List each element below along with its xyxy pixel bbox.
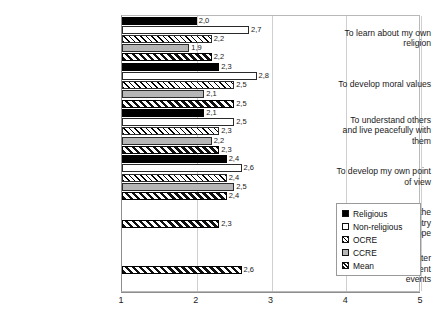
- bar-value-label: 2,3: [221, 219, 231, 228]
- bar: [122, 192, 227, 200]
- legend-item: Religious: [342, 207, 416, 220]
- chart-legend: Religious Non-religious OCRE CCRE Mean: [336, 203, 421, 276]
- bar: [122, 146, 219, 154]
- bar-series-ccre: 2,1: [122, 90, 421, 98]
- x-axis-tick-label: 4: [343, 294, 348, 306]
- x-axis-tick-label: 1: [118, 294, 123, 306]
- y-axis-label-line: To learn about my own: [316, 28, 431, 39]
- bar-value-label: 2,5: [236, 80, 246, 89]
- bar: [122, 90, 204, 98]
- bar-chart: · · · · · · · · 2,02,72,21,92,22,32,82,5…: [0, 0, 434, 320]
- clipped-title-text: · · · · · · · ·: [160, 0, 203, 4]
- bar-series-mean: 2,3: [122, 146, 421, 154]
- x-axis-tick-label: 2: [193, 294, 198, 306]
- bar: [122, 183, 234, 191]
- y-axis-category-label: To understand othersand live peacefully …: [316, 115, 434, 147]
- y-axis-label-line: To develop moral values: [316, 79, 431, 90]
- bar: [122, 35, 212, 43]
- bar: [122, 81, 234, 89]
- bar-value-label: 2,5: [236, 182, 246, 191]
- y-axis-label-line: To understand others: [316, 115, 431, 126]
- bar-value-label: 2,2: [214, 136, 224, 145]
- legend-label: CCRE: [353, 248, 377, 258]
- bar-value-label: 2,6: [244, 163, 254, 172]
- bar-value-label: 2,1: [206, 108, 216, 117]
- bar-value-label: 2,2: [214, 34, 224, 43]
- legend-item: Non-religious: [342, 220, 416, 233]
- legend-label: Mean: [353, 261, 374, 271]
- bar-value-label: 2,4: [229, 154, 239, 163]
- legend-label: Non-religious: [353, 222, 402, 232]
- bar-value-label: 2,5: [236, 99, 246, 108]
- white-swatch-icon: [342, 223, 349, 230]
- bar: [122, 164, 242, 172]
- bar: [122, 53, 212, 61]
- y-axis-label-line: them: [316, 136, 431, 147]
- bar: [122, 137, 212, 145]
- bar: [122, 109, 204, 117]
- legend-item: CCRE: [342, 246, 416, 259]
- bar-value-label: 2,3: [221, 145, 231, 154]
- bar-series-religious: 2,4: [122, 155, 421, 163]
- bar-value-label: 2,2: [214, 52, 224, 61]
- bar-series-religious: 2,3: [122, 63, 421, 71]
- bar: [122, 72, 257, 80]
- vertical-gridline: [421, 16, 422, 291]
- bar-value-label: 2,5: [236, 117, 246, 126]
- solid-black-swatch-icon: [342, 210, 349, 217]
- bar-value-label: 2,8: [259, 71, 269, 80]
- bar-value-label: 2,7: [251, 25, 261, 34]
- y-axis-category-label: To develop my own pointof view: [316, 166, 434, 187]
- bar-value-label: 2,1: [206, 89, 216, 98]
- bar: [122, 266, 242, 274]
- bar-series-mean: 2,5: [122, 100, 421, 108]
- bar-value-label: 2,0: [199, 16, 209, 25]
- x-axis-tick-label: 3: [268, 294, 273, 306]
- y-axis-category-label: To learn about my ownreligion: [316, 28, 434, 49]
- bar-value-label: 2,3: [221, 126, 231, 135]
- bar-series-religious: 2,0: [122, 17, 421, 25]
- bar: [122, 174, 227, 182]
- bar: [122, 63, 219, 71]
- bar: [122, 100, 234, 108]
- legend-item: Mean: [342, 259, 416, 272]
- bar-value-label: 1,9: [191, 43, 201, 52]
- clipped-title-strip: · · · · · · · ·: [0, 0, 434, 10]
- x-axis-line: [121, 292, 420, 293]
- diagonal-hatch-swatch-icon: [342, 262, 349, 269]
- bar-value-label: 2,4: [229, 173, 239, 182]
- y-axis-label-line: religion: [316, 38, 431, 49]
- bar: [122, 220, 219, 228]
- bar: [122, 155, 227, 163]
- y-axis-category-label: To develop moral values: [316, 79, 434, 90]
- light-hatch-swatch-icon: [342, 236, 349, 243]
- legend-item: OCRE: [342, 233, 416, 246]
- y-axis-label-line: and live peacefully with: [316, 125, 431, 136]
- bar: [122, 127, 219, 135]
- legend-label: Religious: [353, 209, 387, 219]
- bar: [122, 118, 234, 126]
- bar-series-mean: 2,4: [122, 192, 421, 200]
- bar: [122, 26, 249, 34]
- y-axis-label-line: To develop my own point: [316, 166, 431, 177]
- x-axis-tick-label: 5: [417, 294, 422, 306]
- bar: [122, 44, 189, 52]
- bar-value-label: 2,6: [244, 265, 254, 274]
- gray-swatch-icon: [342, 249, 349, 256]
- bar-value-label: 2,4: [229, 191, 239, 200]
- bar-value-label: 2,3: [221, 62, 231, 71]
- bar-series-mean: 2,2: [122, 53, 421, 61]
- legend-label: OCRE: [353, 235, 377, 245]
- bar: [122, 17, 197, 25]
- y-axis-label-line: of view: [316, 177, 431, 188]
